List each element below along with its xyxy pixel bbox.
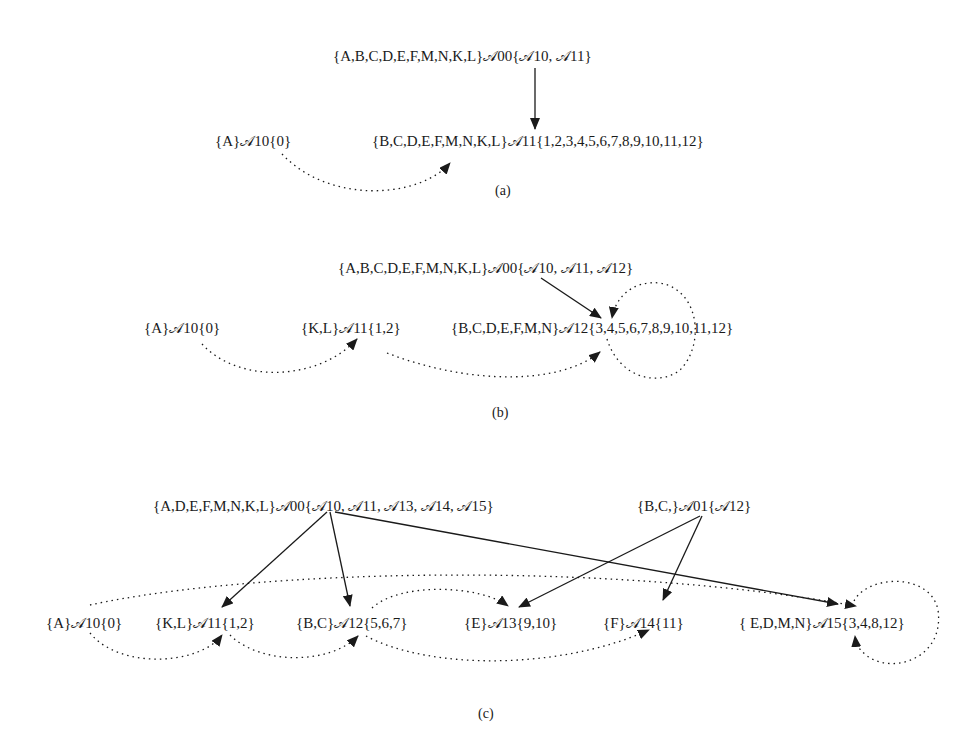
node-b-a00: {A,B,C,D,E,F,M,N,K,L}𝒜00{𝒜10, 𝒜11, 𝒜12}	[338, 259, 633, 277]
node-c-a10: {A}𝒜10{0}	[46, 614, 122, 632]
node-c-a14: {F}𝒜14{11}	[603, 614, 684, 632]
node-c-a01: {B,C,}𝒜01{𝒜12}	[637, 497, 751, 515]
node-c-a00: {A,D,E,F,M,N,K,L}𝒜00{𝒜10, 𝒜11, 𝒜13, 𝒜14,…	[153, 497, 494, 515]
node-a-a11: {B,C,D,E,F,M,N,K,L}𝒜11{1,2,3,4,5,6,7,8,9…	[372, 132, 704, 150]
caption-a: (a)	[495, 183, 511, 199]
node-c-a15: { E,D,M,N}𝒜15{3,4,8,12}	[739, 614, 905, 632]
edge-c-a00-a15	[335, 512, 838, 604]
caption-c: (c)	[478, 706, 494, 722]
node-c-a11: {K,L}𝒜11{1,2}	[155, 614, 255, 632]
caption-b: (b)	[492, 405, 508, 421]
node-b-a11: {K,L}𝒜11{1,2}	[301, 319, 401, 337]
node-b-a10: {A}𝒜10{0}	[144, 319, 220, 337]
edge-a-a10-a11	[282, 154, 450, 191]
edges-layer	[0, 0, 975, 747]
edge-c-a12-a14	[366, 630, 649, 661]
node-c-a12: {B,C}𝒜12{5,6,7}	[296, 614, 408, 632]
edge-c-a12-a13	[372, 589, 508, 608]
edge-c-a01-a14	[663, 516, 702, 600]
node-a-a00: {A,B,C,D,E,F,M,N,K,L}𝒜00{𝒜10, 𝒜11}	[333, 47, 592, 65]
edge-b-a00-a12	[541, 278, 601, 318]
node-a-a10: {A}𝒜10{0}	[215, 132, 291, 150]
edge-c-a10-a15	[90, 575, 856, 606]
edge-c-a11-a12	[230, 635, 358, 658]
edge-b-a10-a11	[202, 339, 357, 372]
edge-c-a10-a11	[90, 633, 222, 659]
edge-b-a11-a12	[387, 352, 600, 377]
edge-c-a01-a13	[519, 516, 700, 607]
node-c-a13: {E}𝒜13{9,10}	[464, 614, 557, 632]
edge-c-a00-a11	[222, 512, 327, 607]
edge-c-a00-a12	[330, 512, 350, 606]
node-b-a12: {B,C,D,E,F,M,N}𝒜12{3,4,5,6,7,8,9,10,11,1…	[451, 319, 733, 337]
